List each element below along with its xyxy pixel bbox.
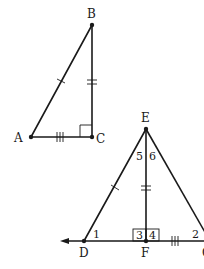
point-c xyxy=(90,135,94,139)
triangle-abc: A B C xyxy=(13,7,105,146)
angle-2: 2 xyxy=(192,228,199,241)
angle-3: 3 xyxy=(136,229,143,242)
angle-6: 6 xyxy=(149,150,156,163)
angle-5: 5 xyxy=(136,150,143,163)
point-b xyxy=(90,23,94,27)
geometry-diagram: A B C E D F G 1 2 3 xyxy=(0,0,204,269)
label-a: A xyxy=(13,131,23,145)
arrow-left-icon xyxy=(60,238,69,244)
point-d xyxy=(82,239,86,243)
label-f: F xyxy=(141,246,149,260)
label-g: G xyxy=(202,246,204,260)
segment-eg xyxy=(146,129,204,241)
label-b: B xyxy=(87,7,96,21)
point-f xyxy=(144,239,148,243)
segment-de xyxy=(84,129,146,241)
angle-1: 1 xyxy=(93,228,100,241)
right-angle-marker-c xyxy=(80,125,92,137)
point-e xyxy=(144,127,148,131)
label-c: C xyxy=(96,132,105,146)
triangle-deg: E D F G 1 2 3 4 5 6 xyxy=(60,111,204,260)
label-e: E xyxy=(141,111,150,125)
angle-4: 4 xyxy=(149,229,156,242)
label-d: D xyxy=(79,246,89,260)
point-a xyxy=(29,135,33,139)
